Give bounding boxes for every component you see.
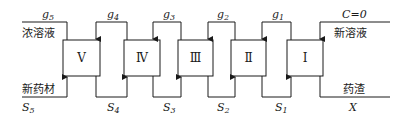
label-concentrated-solution: 浓溶液 bbox=[22, 26, 55, 40]
flow-line-g1 bbox=[262, 22, 291, 40]
stage-label-II: Ⅱ bbox=[244, 51, 252, 65]
countercurrent-extraction-diagram: Ⅴ Ⅳ Ⅲ Ⅱ Ⅰ g5 g4 g3 g2 g1 S5 S4 S3 S2 S1 … bbox=[0, 0, 409, 121]
flow-label-g1: g1 bbox=[272, 8, 284, 22]
flow-line-g4 bbox=[96, 22, 127, 40]
stage-label-I: Ⅰ bbox=[303, 51, 308, 65]
flow-label-S2: S2 bbox=[217, 101, 230, 115]
flow-label-g4: g4 bbox=[107, 8, 119, 22]
label-new-herbs: 新药材 bbox=[22, 82, 55, 96]
flow-label-g3: g3 bbox=[163, 8, 175, 22]
flow-label-g2: g2 bbox=[217, 8, 229, 22]
stage-label-V: Ⅴ bbox=[76, 51, 86, 65]
stage-label-IV: Ⅳ bbox=[136, 51, 149, 65]
label-new-solvent: 新溶液 bbox=[334, 26, 367, 40]
flow-label-S1: S1 bbox=[275, 101, 288, 115]
label-residue: 药渣 bbox=[343, 82, 365, 96]
label-condition-c0: C=0 bbox=[342, 8, 367, 21]
flow-line-S1 bbox=[262, 76, 291, 97]
flow-line-g3 bbox=[153, 22, 181, 40]
flow-line-S2 bbox=[208, 76, 235, 97]
flow-label-g5: g5 bbox=[42, 8, 54, 22]
stage-label-III: Ⅲ bbox=[190, 51, 202, 65]
flow-line-S4 bbox=[96, 76, 127, 97]
flow-label-S5: S5 bbox=[22, 101, 35, 115]
label-residue-x: X bbox=[348, 101, 358, 114]
flow-label-S3: S3 bbox=[163, 101, 176, 115]
flow-label-S4: S4 bbox=[107, 101, 120, 115]
flow-line-g2 bbox=[208, 22, 235, 40]
flow-line-S3 bbox=[153, 76, 181, 97]
